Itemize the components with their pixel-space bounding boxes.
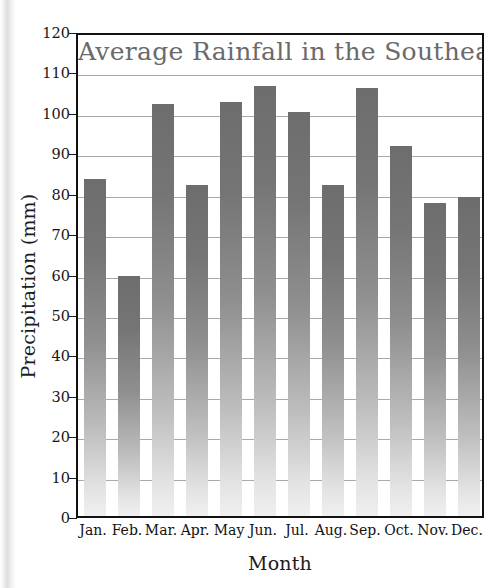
bar (288, 112, 310, 516)
bar (424, 203, 446, 516)
plot-area: Average Rainfall in the Southeast (76, 33, 484, 518)
y-axis-tick-label: 30 (18, 389, 70, 405)
x-axis-tick-label: Dec. (451, 522, 483, 538)
y-axis-tick-label: 80 (18, 187, 70, 203)
x-axis-tick-label: May (214, 522, 245, 538)
x-axis-tick-layer: Jan.Feb.Mar.Apr.MayJun.Jul.Aug.Sep.Oct.N… (76, 522, 484, 546)
bar (390, 146, 412, 516)
x-axis-tick-label: Jan. (79, 522, 106, 538)
bar (84, 179, 106, 516)
x-axis-tick-label: Jul. (285, 522, 309, 538)
y-axis-tick-mark (69, 518, 77, 519)
y-axis-tick-label: 60 (18, 268, 70, 284)
x-axis-tick-label: Apr. (181, 522, 210, 538)
y-axis-tick-label: 120 (18, 25, 70, 41)
chart-title: Average Rainfall in the Southeast (78, 37, 482, 66)
x-axis-title: Month (76, 552, 484, 574)
y-axis-tick-label: 40 (18, 348, 70, 364)
x-axis-tick-label: Feb. (112, 522, 143, 538)
y-axis-tick-label: 50 (18, 308, 70, 324)
y-axis-tick-label: 10 (18, 470, 70, 486)
bar (322, 185, 344, 516)
bar (186, 185, 208, 516)
y-axis-tick-label: 110 (18, 65, 70, 81)
x-axis-tick-label: Mar. (145, 522, 177, 538)
x-axis-tick-label: Oct. (384, 522, 413, 538)
bar (356, 88, 378, 516)
y-axis-tick-label: 0 (18, 510, 70, 526)
bar (152, 104, 174, 516)
y-axis-tick-label: 20 (18, 429, 70, 445)
x-axis-tick-label: Nov. (417, 522, 448, 538)
bar (458, 197, 480, 516)
y-axis-tick-label: 70 (18, 227, 70, 243)
y-axis-tick-label: 100 (18, 106, 70, 122)
bar (254, 86, 276, 516)
x-axis-tick-label: Jun. (249, 522, 277, 538)
bar (118, 276, 140, 516)
bars-layer (78, 35, 482, 516)
bar (220, 102, 242, 516)
x-axis-tick-label: Aug. (315, 522, 348, 538)
bar-chart-figure: Precipitation (mm) 010203040506070809010… (0, 0, 494, 588)
x-axis-tick-label: Sep. (349, 522, 380, 538)
y-axis-tick-label: 90 (18, 146, 70, 162)
